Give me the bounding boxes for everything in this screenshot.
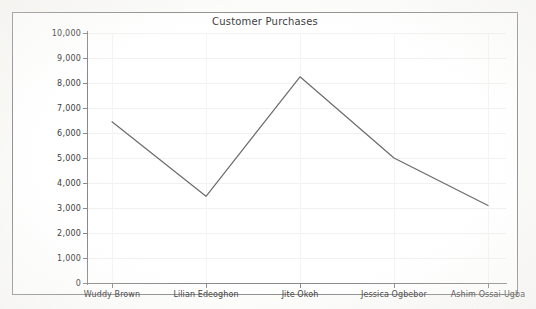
y-axis-tick — [83, 133, 88, 134]
y-axis-tick-label: 9,000 — [23, 54, 81, 63]
x-axis-tick-label: Wuddy Brown — [84, 290, 140, 299]
x-axis-tick — [112, 284, 113, 288]
screenshot-root: Customer Purchases 10,0009,0008,0007,000… — [0, 0, 536, 309]
x-axis-tick — [206, 284, 207, 288]
y-axis-tick — [83, 158, 88, 159]
y-axis-tick-label: 8,000 — [23, 79, 81, 88]
chart-title: Customer Purchases — [13, 16, 517, 27]
y-axis-tick-label: 5,000 — [23, 154, 81, 163]
y-axis-tick — [83, 283, 88, 284]
y-axis-tick-label: 3,000 — [23, 204, 81, 213]
x-axis-line — [87, 283, 507, 284]
y-axis-tick — [83, 233, 88, 234]
x-axis-tick — [488, 284, 489, 288]
plot-area — [88, 33, 506, 283]
y-axis-tick-label: 2,000 — [23, 229, 81, 238]
y-axis-tick-label: 10,000 — [23, 29, 81, 38]
y-axis-tick — [83, 208, 88, 209]
x-axis-tick-label: Jite Okoh — [282, 290, 319, 299]
chart-frame: Customer Purchases 10,0009,0008,0007,000… — [12, 12, 518, 295]
y-axis-tick — [83, 183, 88, 184]
y-axis-tick-label: 6,000 — [23, 129, 81, 138]
x-axis-tick — [394, 284, 395, 288]
x-axis-tick-label: Jessica Ogbebor — [361, 290, 427, 299]
y-axis-tick-label: 7,000 — [23, 104, 81, 113]
y-axis-tick — [83, 33, 88, 34]
y-axis-tick — [83, 258, 88, 259]
x-axis-tick — [300, 284, 301, 288]
y-axis-tick — [83, 58, 88, 59]
x-axis-tick-label: Lilian Edeoghon — [173, 290, 238, 299]
y-axis-tick-label: 0 — [23, 279, 81, 288]
y-axis-tick-label: 1,000 — [23, 254, 81, 263]
y-axis-tick — [83, 108, 88, 109]
y-axis-label-group: 10,0009,0008,0007,0006,0005,0004,0003,00… — [13, 13, 81, 296]
x-axis-tick-label: Ashim Ossai-Ugba — [451, 290, 525, 299]
line-series-customer-purchases — [88, 33, 506, 283]
y-axis-tick-label: 4,000 — [23, 179, 81, 188]
y-axis-tick — [83, 83, 88, 84]
